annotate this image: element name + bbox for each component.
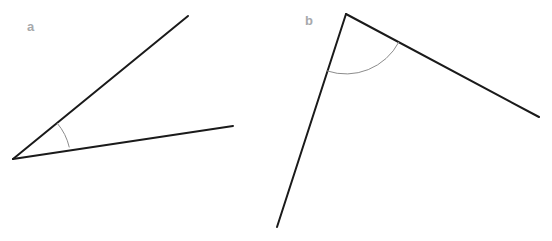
ray-b-left [277, 14, 346, 227]
angle-group-a [13, 16, 233, 159]
angle-diagram-svg [0, 0, 552, 241]
angle-figure-canvas: a b [0, 0, 552, 241]
angle-arc-a [57, 123, 69, 147]
angle-group-b [277, 14, 539, 227]
angle-label-b: b [305, 14, 313, 27]
angle-arc-b [327, 42, 399, 74]
angle-label-a: a [27, 20, 34, 33]
ray-b-right [346, 14, 539, 117]
